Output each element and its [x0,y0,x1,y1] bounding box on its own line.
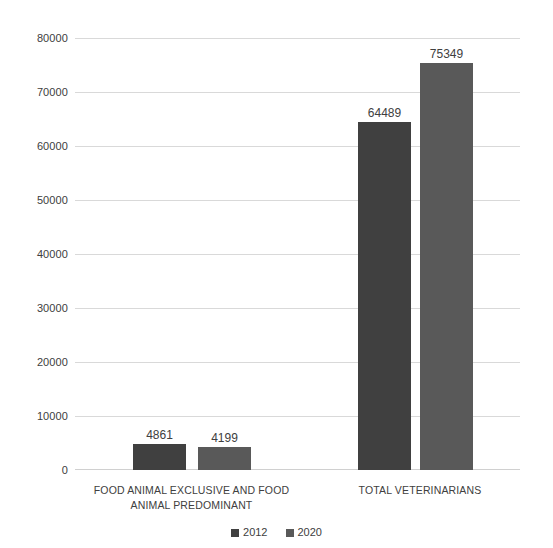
bar-2012-food-animal[interactable] [133,444,186,470]
y-axis-tick-label: 80000 [6,33,68,44]
legend-label: 2020 [298,527,322,538]
bar-2020-food-animal[interactable] [198,447,251,470]
plot-area: 4861 4199 64489 75349 [75,38,520,470]
y-axis-tick-label: 0 [6,465,68,476]
y-axis-tick-label: 70000 [6,87,68,98]
bar-value-label: 4199 [198,432,251,445]
bar-value-label: 64489 [358,107,411,120]
x-axis-category-label-total-veterinarians: TOTAL VETERINARIANS [300,483,540,498]
y-axis-tick-label: 10000 [6,411,68,422]
category-label-line: TOTAL VETERINARIANS [300,483,540,498]
bar-2012-total-veterinarians[interactable] [358,122,411,470]
y-axis: 80000 70000 60000 50000 40000 30000 2000… [0,38,68,470]
y-axis-tick-label: 50000 [6,195,68,206]
legend-item-2020[interactable]: 2020 [286,527,322,538]
legend-item-2012[interactable]: 2012 [231,527,267,538]
category-label-line: ANIMAL PREDOMINANT [64,498,319,513]
y-axis-tick-label: 40000 [6,249,68,260]
gridline [75,38,520,39]
x-axis-category-label-food-animal: FOOD ANIMAL EXCLUSIVE AND FOOD ANIMAL PR… [64,483,319,513]
bar-2020-total-veterinarians[interactable] [420,63,473,470]
bar-value-label: 4861 [133,429,186,442]
legend-swatch-icon [286,529,294,537]
y-axis-tick-label: 60000 [6,141,68,152]
y-axis-tick-label: 30000 [6,303,68,314]
bar-chart: 80000 70000 60000 50000 40000 30000 2000… [0,0,553,548]
legend: 2012 2020 [0,527,553,538]
y-axis-tick-label: 20000 [6,357,68,368]
bar-value-label: 75349 [420,48,473,61]
category-label-line: FOOD ANIMAL EXCLUSIVE AND FOOD [64,483,319,498]
legend-label: 2012 [243,527,267,538]
legend-swatch-icon [231,529,239,537]
